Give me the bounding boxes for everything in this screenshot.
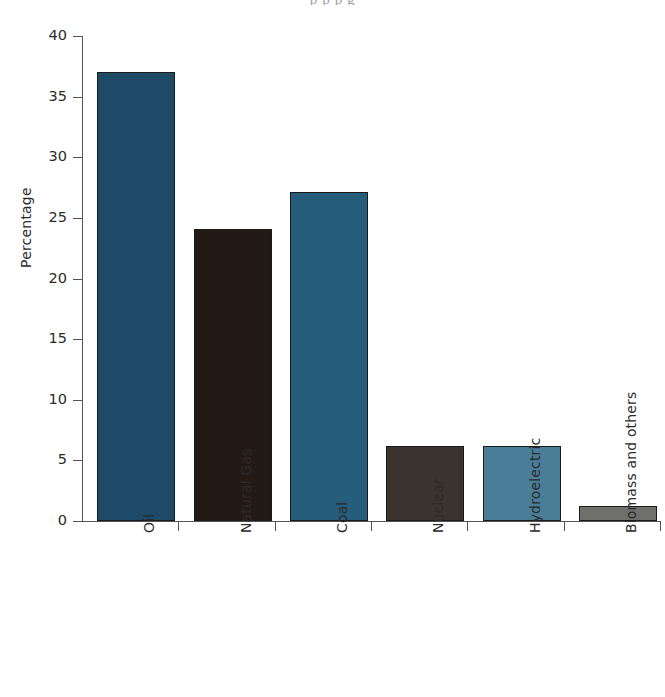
x-axis-tick — [564, 521, 565, 531]
bar-fill — [194, 229, 272, 521]
y-axis-tick-label: 40 — [49, 27, 67, 44]
y-axis-tick-label: 0 — [58, 512, 67, 529]
bar-fill — [579, 506, 657, 521]
y-axis-tick: 20 — [73, 279, 82, 280]
bar-fill — [386, 446, 464, 521]
x-axis-tick — [467, 521, 468, 531]
bar[interactable] — [97, 72, 175, 521]
x-axis-category-label: Coal — [335, 502, 349, 533]
x-axis-tick — [178, 521, 179, 531]
y-axis-tick: 35 — [73, 97, 82, 98]
x-axis-category-label: Oil — [142, 514, 156, 533]
y-axis-tick: 30 — [73, 157, 82, 158]
y-axis-tick-label: 10 — [49, 391, 67, 408]
bar-fill — [97, 72, 175, 521]
y-axis-tick-label: 25 — [49, 209, 67, 226]
y-axis-title: Percentage — [18, 187, 34, 268]
cropped-page-text: p p p g — [0, 0, 665, 5]
x-axis-category-label: Nuclear — [431, 478, 445, 533]
x-axis-tick — [371, 521, 372, 531]
bar[interactable] — [386, 446, 464, 521]
y-axis-tick-label: 5 — [58, 451, 67, 468]
y-axis-tick: 40 — [73, 36, 82, 37]
bar[interactable] — [194, 229, 272, 521]
plot-area: 0510152025303540 — [82, 36, 660, 521]
bar[interactable] — [483, 446, 561, 521]
y-axis-tick: 5 — [73, 460, 82, 461]
bar-fill — [290, 192, 368, 521]
bar[interactable] — [579, 506, 657, 521]
y-axis-tick-label: 30 — [49, 148, 67, 165]
x-axis-category-label: Natural Gas — [239, 449, 253, 533]
bar-chart-figure: p p p g Percentage 0510152025303540 OilN… — [0, 0, 665, 697]
bar-fill — [483, 446, 561, 521]
y-axis-tick: 15 — [73, 339, 82, 340]
x-axis-tick — [275, 521, 276, 531]
y-axis-tick: 10 — [73, 400, 82, 401]
x-axis-tick — [660, 521, 661, 531]
y-axis-tick-label: 15 — [49, 330, 67, 347]
y-axis-tick: 25 — [73, 218, 82, 219]
x-axis-category-label: Biomass and others — [624, 392, 638, 533]
y-axis-line — [82, 36, 83, 522]
y-axis-tick: 0 — [73, 521, 82, 522]
y-axis-tick-label: 20 — [49, 270, 67, 287]
x-axis-category-label: Hydroelectric — [528, 438, 542, 533]
y-axis-tick-label: 35 — [49, 88, 67, 105]
bar[interactable] — [290, 192, 368, 521]
